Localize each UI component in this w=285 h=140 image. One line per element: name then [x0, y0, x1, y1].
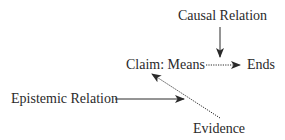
evidence-label: Evidence	[193, 122, 245, 136]
ends-label: Ends	[247, 58, 275, 72]
epistemic-relation-label: Epistemic Relation	[11, 92, 118, 106]
claim-means-label: Claim: Means	[126, 58, 205, 72]
evidence-claim-dotted-arrow	[152, 74, 220, 118]
causal-relation-label: Causal Relation	[178, 9, 267, 23]
